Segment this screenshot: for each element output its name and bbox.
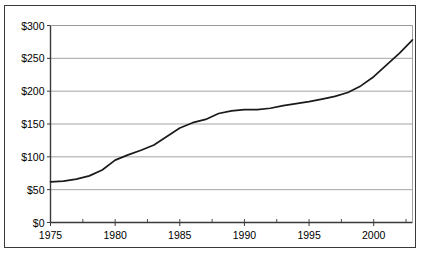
line-chart [0, 0, 421, 254]
gridlines [51, 26, 413, 223]
data-series-line [51, 40, 413, 182]
y-tick-label: $200 [6, 85, 45, 97]
x-tick-label: 1975 [39, 229, 62, 241]
y-tick-label: $150 [6, 118, 45, 130]
x-tick-label: 1995 [297, 229, 320, 241]
y-tick-label: $50 [6, 184, 45, 196]
x-tick-label: 1990 [233, 229, 256, 241]
x-tick-label: 1985 [168, 229, 191, 241]
x-tick-label: 2000 [362, 229, 385, 241]
x-major-ticks [47, 26, 374, 227]
y-tick-label: $250 [6, 52, 45, 64]
x-tick-label: 1980 [103, 229, 126, 241]
y-tick-label: $100 [6, 151, 45, 163]
y-tick-label: $0 [6, 217, 45, 229]
y-tick-label: $300 [6, 20, 45, 32]
